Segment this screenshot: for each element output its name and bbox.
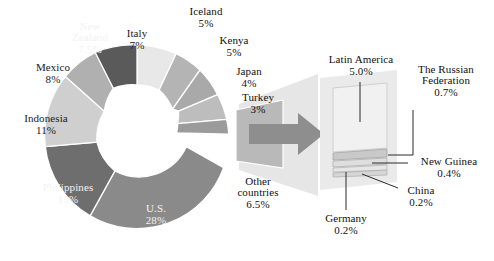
label-mexico: Mexico 8% xyxy=(26,62,80,85)
label-germany: Germany 0.2% xyxy=(312,213,380,236)
label-new-zealand: New Zealand 7.5% xyxy=(62,21,118,55)
label-iceland: Iceland 5% xyxy=(179,6,233,29)
label-japan: Japan 4% xyxy=(227,66,271,89)
label-kenya: Kenya 5% xyxy=(210,35,258,58)
label-russian-federation: The Russian Federation 0.7% xyxy=(403,64,489,98)
label-new-guinea: New Guinea 0.4% xyxy=(409,156,489,179)
chart-canvas: Italy 7% New Zealand 7.5% Mexico 8% Indo… xyxy=(0,0,494,261)
label-us: U.S. 28% xyxy=(134,203,178,226)
label-latin-america: Latin America 5.0% xyxy=(315,54,407,77)
label-indonesia: Indonesia 11% xyxy=(13,113,79,136)
label-turkey: Turkey 3% xyxy=(235,92,281,115)
label-other-countries: Other countries 6.5% xyxy=(225,176,291,210)
label-italy: Italy 7% xyxy=(113,28,161,51)
label-philippines: Philippines 15% xyxy=(31,182,105,205)
label-china: China 0.2% xyxy=(395,185,447,208)
